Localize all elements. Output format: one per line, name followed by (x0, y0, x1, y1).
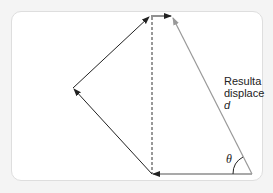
vector-3-arrow (73, 17, 149, 88)
vector-2-arrow (74, 89, 152, 174)
angle-theta-label: θ (226, 152, 232, 167)
resultant-label-line1: Resulta (224, 75, 273, 87)
resultant-symbol: d (224, 99, 273, 111)
resultant-label-line2: displace (224, 87, 273, 99)
angle-arc (233, 157, 243, 174)
resultant-label: Resulta displace d (224, 75, 273, 111)
